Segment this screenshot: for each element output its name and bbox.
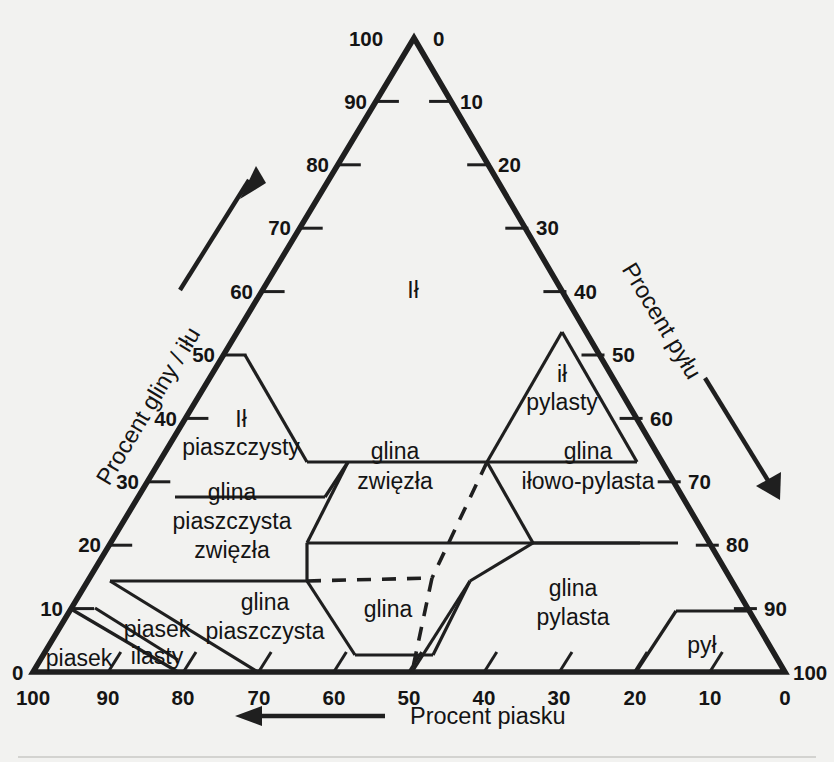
br-sand-label: 0 [779,686,790,709]
sand-direction-arrow [235,706,385,726]
class-label-il-piaszczysty-line1: piaszczysty [182,434,300,460]
bottom-tick-90: 90 [97,686,120,709]
class-label-il-pylasty-line0: ił [557,361,567,387]
class-label-glina-line0: glina [364,596,413,622]
class-label-glina: glina [364,596,413,622]
left-tick-60: 60 [230,280,253,303]
bottom-tick-60: 60 [323,686,346,709]
left-tick-90: 90 [344,90,367,113]
bottom-tick-70: 70 [248,686,271,709]
soil-texture-triangle: 100 0 0 100 100 0 10 20 30 40 50 60 70 8… [0,0,834,762]
class-label-il-piaszczysty: Ił piaszczysty [182,406,300,460]
right-tick-90: 90 [764,597,787,620]
bl-sand-label: 100 [16,686,50,709]
class-label-glina-ilowo-pylasta: glina iłowo-pylasta [522,438,655,494]
class-label-pi-line0: piasek [124,616,191,642]
silt-direction-arrow [705,378,781,500]
class-label-gp-line1: piaszczysta [206,618,325,644]
clay-direction-arrow [180,166,266,290]
br-silt-label: 100 [793,661,827,684]
left-tick-80: 80 [306,153,329,176]
right-tick-20: 20 [498,153,521,176]
bottom-tick-numbers: 90 80 70 60 50 40 30 20 10 [97,686,722,709]
right-tick-40: 40 [574,280,597,303]
class-label-glina-pylasta: glina pylasta [537,575,610,630]
bottom-tick-80: 80 [172,686,195,709]
right-tick-60: 60 [650,407,673,430]
class-label-il-piaszczysty-line0: Ił [235,406,247,432]
apex-right-label: 0 [433,27,444,50]
right-tick-30: 30 [536,216,559,239]
class-label-il-line0: Ił [407,277,419,303]
right-tick-numbers: 10 20 30 40 50 60 70 80 90 [460,90,787,620]
class-label-il: Ił [407,277,419,303]
class-label-piasek: piasek [46,645,113,671]
left-tick-70: 70 [268,216,291,239]
class-label-glina-zwiezla: glina zwięzła [357,438,433,494]
class-label-pi-line1: ilasty [131,643,184,669]
class-label-il-pylasty-line1: pylasty [526,389,598,415]
bl-clay-label: 0 [12,661,23,684]
class-label-glina-ilowo-pylasta-line1: iłowo-pylasta [522,468,655,494]
class-label-gp-line0: glina [241,589,290,615]
class-label-pyl-line0: pył [687,632,716,658]
class-label-il-pylasty: ił pylasty [526,361,598,415]
right-tick-50: 50 [612,343,635,366]
class-label-glina-zwiezla-line1: zwięzła [357,468,433,494]
class-label-gpz-line0: glina [208,479,257,505]
right-axis-ticks [429,101,757,608]
left-tick-10: 10 [40,597,63,620]
right-tick-80: 80 [726,533,749,556]
apex-left-label: 100 [349,27,383,50]
class-label-piasek-line0: piasek [46,645,113,671]
class-label-glina-zwiezla-line0: glina [371,438,420,464]
right-tick-10: 10 [460,90,483,113]
clay-axis-title: Procent gliny / iłu [91,322,205,489]
class-label-piasek-ilasty: piasek ilasty [124,616,191,669]
class-label-glina-piaszczysta: glina piaszczysta [206,589,325,644]
class-label-glina-ilowo-pylasta-line0: glina [564,438,613,464]
class-label-glina-pylasta-line0: glina [549,575,598,601]
right-tick-70: 70 [688,470,711,493]
class-label-gpz-line1: piaszczysta [173,508,292,534]
bottom-tick-10: 10 [699,686,722,709]
class-label-gpz-line2: zwięzła [194,537,270,563]
left-tick-20: 20 [78,533,101,556]
class-label-pyl: pył [687,632,716,658]
class-label-glina-piaszczysta-zwiezla: glina piaszczysta zwięzła [173,479,292,563]
bottom-tick-20: 20 [624,686,647,709]
sand-axis-title: Procent piasku [410,703,565,729]
class-label-glina-pylasta-line1: pylasta [537,604,610,630]
triangle-canvas: 100 0 0 100 100 0 10 20 30 40 50 60 70 8… [0,0,834,762]
